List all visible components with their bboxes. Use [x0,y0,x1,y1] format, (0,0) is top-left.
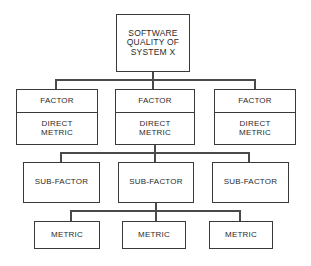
connector-root-to-factor-right [254,79,256,89]
software-quality-hierarchy-diagram: SOFTWARE QUALITY OF SYSTEM X FACTOR DIRE… [0,0,311,266]
node-factor-left: FACTOR DIRECT METRIC [16,89,98,145]
connector-factor-to-subfactor-middle [154,152,156,162]
connector-subfactor-to-metric-middle [155,210,157,221]
node-metric-right-label: METRIC [210,222,272,248]
node-factor-right-direct-metric-label: DIRECT METRIC [215,113,295,144]
node-subfactor-left-label: SUB-FACTOR [24,163,99,202]
node-subfactor-middle: SUB-FACTOR [118,162,194,203]
node-metric-right: METRIC [209,221,273,249]
node-factor-middle: FACTOR DIRECT METRIC [115,89,195,145]
connector-factor-to-subfactor-left [60,152,62,162]
node-subfactor-left: SUB-FACTOR [23,162,100,203]
node-subfactor-right-label: SUB-FACTOR [213,163,288,202]
connector-factor-to-subfactor-right [248,152,250,162]
connector-subfactor-to-metric-right [239,210,241,221]
node-factor-middle-label: FACTOR [116,90,194,113]
node-factor-left-label: FACTOR [17,90,97,113]
node-factor-right: FACTOR DIRECT METRIC [214,89,296,145]
connector-root-bus [55,79,256,81]
connector-root-to-factor-left [55,79,57,89]
connector-root-to-factor-middle [152,79,154,89]
connector-subfactor-to-metric-left [70,210,72,221]
node-metric-middle-label: METRIC [123,222,185,248]
node-factor-middle-direct-metric-label: DIRECT METRIC [116,113,194,144]
node-factor-right-label: FACTOR [215,90,295,113]
node-factor-left-direct-metric-label: DIRECT METRIC [17,113,97,144]
node-root-label: SOFTWARE QUALITY OF SYSTEM X [117,15,189,71]
node-metric-left-label: METRIC [35,222,99,248]
node-metric-left: METRIC [34,221,100,249]
node-subfactor-right: SUB-FACTOR [212,162,289,203]
node-software-quality-root: SOFTWARE QUALITY OF SYSTEM X [116,14,190,72]
node-metric-middle: METRIC [122,221,186,249]
node-subfactor-middle-label: SUB-FACTOR [119,163,193,202]
